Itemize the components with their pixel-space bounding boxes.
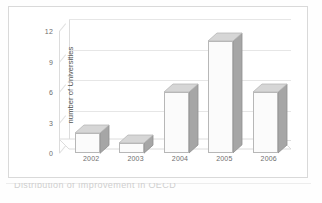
- y-tick-label: 3: [49, 119, 59, 126]
- bar-front-face: [75, 133, 100, 153]
- x-tick-label: 2002: [69, 155, 113, 162]
- bar-top-polygon-icon: [253, 82, 288, 92]
- bar-2004[interactable]: [164, 92, 189, 153]
- bar-front-face: [164, 92, 189, 153]
- plot-area: 036912 number of Universities 2002200320…: [59, 19, 291, 151]
- x-tick-label: 2003: [113, 155, 157, 162]
- bar-top-polygon-icon: [119, 133, 154, 143]
- x-tick-label: 2005: [202, 155, 246, 162]
- bar-slot: [202, 31, 246, 153]
- bar-top-polygon-icon: [75, 123, 110, 133]
- y-tick-label: 0: [49, 150, 59, 157]
- bar-slot: [158, 31, 202, 153]
- chart-frame: 036912 number of Universities 2002200320…: [8, 6, 308, 178]
- bar-front-face: [208, 41, 233, 153]
- bar-front-face: [253, 92, 278, 153]
- bar-top-polygon-icon: [164, 82, 199, 92]
- x-tick-label: 2004: [158, 155, 202, 162]
- bar-2005[interactable]: [208, 41, 233, 153]
- bar-front-face: [119, 143, 144, 153]
- bar-2003[interactable]: [119, 143, 144, 153]
- figure-container: 036912 number of Universities 2002200320…: [0, 0, 322, 203]
- y-tick-label: 9: [49, 58, 59, 65]
- bars-layer: [69, 31, 291, 153]
- caption-text: Distribution of ımprovement in OECD: [14, 183, 176, 190]
- figure-caption: Distribution of ımprovement in OECD: [0, 183, 322, 203]
- bar-slot: [113, 31, 157, 153]
- bar-top-polygon-icon: [208, 31, 243, 41]
- bar-side-polygon-icon: [233, 32, 243, 153]
- bar-side-polygon-icon: [278, 83, 288, 153]
- bar-2006[interactable]: [253, 92, 278, 153]
- y-tick-label: 12: [45, 28, 59, 35]
- bar-side-polygon-icon: [189, 83, 199, 153]
- gridline: [69, 19, 291, 20]
- bar-2002[interactable]: [75, 133, 100, 153]
- bar-slot: [247, 31, 291, 153]
- y-tick-label: 6: [49, 89, 59, 96]
- bar-slot: [69, 31, 113, 153]
- axis-depth-edge: [59, 23, 66, 31]
- y-axis-line: [59, 31, 60, 153]
- x-tick-label: 2006: [247, 155, 291, 162]
